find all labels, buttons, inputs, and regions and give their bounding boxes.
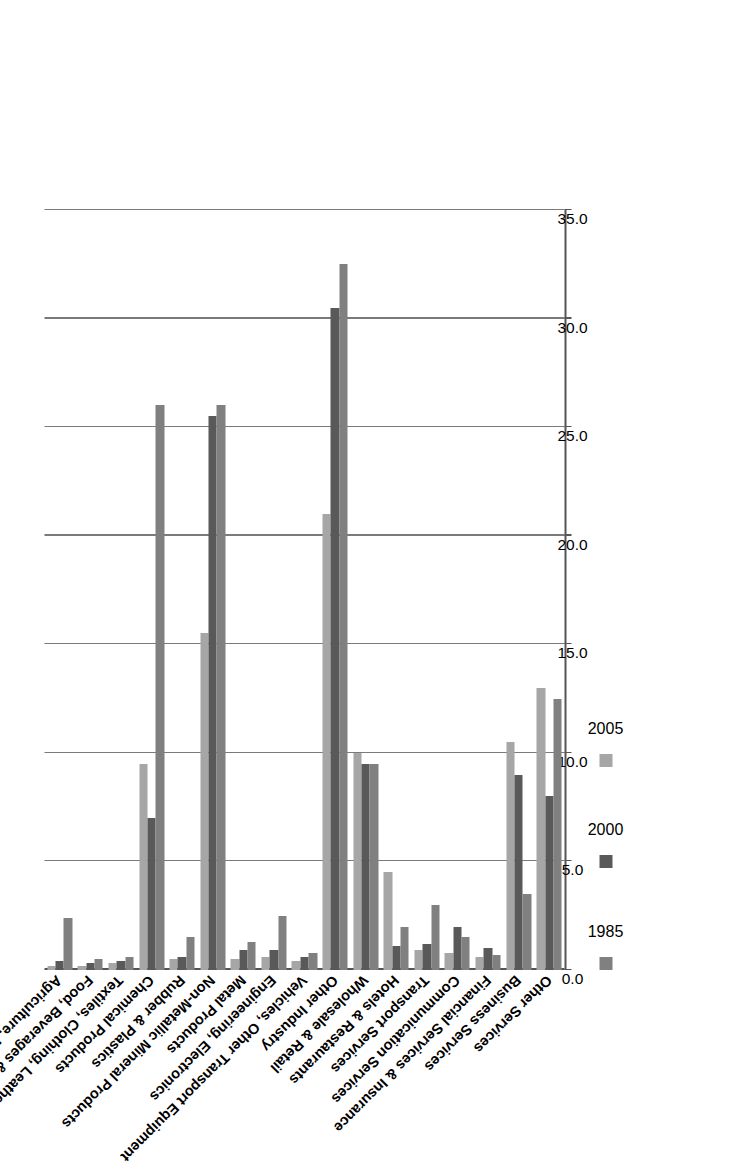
bar-1985 [155, 405, 163, 970]
legend-swatch-2005 [599, 754, 612, 767]
bar-2000 [330, 308, 338, 970]
bar-group [197, 210, 228, 970]
bar-2005 [139, 764, 147, 970]
bar-2005 [77, 966, 85, 970]
bar-2000 [361, 764, 369, 970]
bar-1985 [339, 264, 347, 970]
bar-1985 [63, 918, 71, 970]
bar-1985 [400, 927, 408, 970]
bar-2005 [536, 688, 544, 970]
bar-2005 [108, 964, 116, 971]
legend-label: 1985 [587, 923, 623, 941]
legend-label: 2000 [587, 822, 623, 840]
bar-2000 [545, 796, 553, 970]
bar-group [228, 210, 259, 970]
bar-1985 [278, 916, 286, 970]
bar-2005 [291, 961, 299, 970]
bar-group [44, 210, 75, 970]
bar-2005 [383, 872, 391, 970]
bar-1985 [216, 405, 224, 970]
plot-area: 0.05.010.015.020.025.030.035.0 Agricultu… [44, 210, 564, 970]
bar-2005 [322, 514, 330, 970]
bar-1985 [125, 957, 133, 970]
bar-2000 [208, 416, 216, 970]
bar-2005 [169, 959, 177, 970]
bar-group [533, 210, 564, 970]
bar-group [75, 210, 106, 970]
bar-group [411, 210, 442, 970]
bar-1985 [492, 955, 500, 970]
bar-2000 [483, 948, 491, 970]
bar-2000 [269, 950, 277, 970]
bar-1985 [461, 937, 469, 970]
bar-1985 [431, 905, 439, 970]
bar-1985 [247, 942, 255, 970]
bar-group [289, 210, 320, 970]
bar-group [472, 210, 503, 970]
bar-group [105, 210, 136, 970]
bar-1985 [369, 764, 377, 970]
bar-group [350, 210, 381, 970]
bar-1985 [553, 699, 561, 970]
bar-2000 [86, 964, 94, 971]
bar-2005 [353, 753, 361, 970]
bar-group [258, 210, 289, 970]
legend-swatch-1985 [599, 957, 612, 970]
bar-2000 [55, 961, 63, 970]
bar-1985 [94, 959, 102, 970]
bar-2005 [230, 959, 238, 970]
bar-group [166, 210, 197, 970]
bar-2005 [414, 950, 422, 970]
chart-rotated-canvas: 0.05.010.015.020.025.030.035.0 Agricultu… [0, 0, 731, 1166]
bar-group [380, 210, 411, 970]
bar-1985 [186, 937, 194, 970]
bar-group [136, 210, 167, 970]
bar-2005 [200, 633, 208, 970]
bar-2000 [453, 927, 461, 970]
bar-2000 [177, 957, 185, 970]
bar-2000 [239, 950, 247, 970]
legend-item-2005[interactable]: 2005 [596, 711, 614, 767]
bar-2000 [147, 818, 155, 970]
bar-1985 [522, 894, 530, 970]
chart-page: 0.05.010.015.020.025.030.035.0 Agricultu… [0, 0, 731, 1166]
bar-2005 [506, 742, 514, 970]
bar-2000 [116, 961, 124, 970]
bar-2000 [422, 944, 430, 970]
legend-item-1985[interactable]: 1985 [596, 914, 614, 970]
bar-group [319, 210, 350, 970]
bar-2005 [47, 966, 55, 970]
bar-2000 [300, 957, 308, 970]
legend-label: 2005 [587, 720, 623, 738]
chart-legend: 198520002005 [596, 711, 614, 970]
bar-group [503, 210, 534, 970]
bar-2005 [475, 957, 483, 970]
bar-group [442, 210, 473, 970]
bar-1985 [308, 953, 316, 970]
bar-2000 [514, 775, 522, 970]
bar-2005 [261, 957, 269, 970]
legend-item-2000[interactable]: 2000 [596, 813, 614, 869]
legend-swatch-2000 [599, 855, 612, 868]
bar-2000 [392, 946, 400, 970]
bar-2005 [444, 953, 452, 970]
